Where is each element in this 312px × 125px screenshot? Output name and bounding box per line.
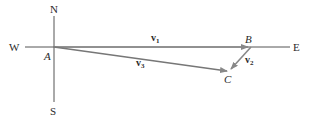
point-a-label: A [43,50,51,62]
vector-v1-label: v1 [151,32,160,45]
point-c-label: C [224,73,232,85]
diagram-canvas: N S W E A B C v1 v2 v3 [0,0,312,125]
vector-v2-label: v2 [245,54,254,67]
vector-diagram: N S W E A B C v1 v2 v3 [0,0,312,125]
west-label: W [9,41,20,53]
east-label: E [293,41,300,53]
south-label: S [50,105,56,117]
point-b-label: B [245,33,252,45]
north-label: N [50,3,58,15]
